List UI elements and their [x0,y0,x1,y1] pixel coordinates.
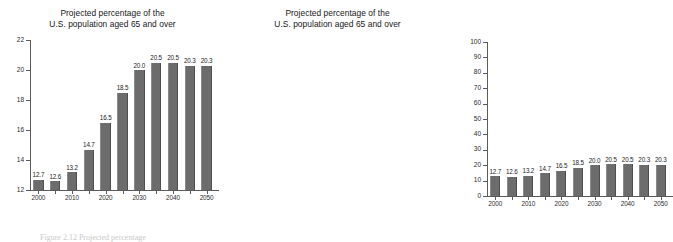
left-chart-y-tick-mark [26,40,30,41]
right-chart-y-tick-label: 30 [474,145,481,152]
right-chart-y-tick-mark [483,42,487,43]
right-chart-y-tick-mark [483,181,487,182]
right-chart-y-tick-label: 50 [474,115,481,122]
left-chart-bar-value-label: 13.2 [66,164,78,171]
left-chart-bar [201,66,212,191]
left-chart-y-tick-mark [26,130,30,131]
right-chart-bar-value-label: 20.3 [638,156,650,163]
left-chart-x-tick-label: 2000 [31,194,45,201]
left-chart-bar-value-label: 12.6 [49,173,61,180]
left-chart-y-tick-label: 22 [17,36,24,43]
right-chart-bar-value-label: 20.0 [589,157,601,164]
right-chart-y-tick-mark [483,104,487,105]
left-chart-bar [168,63,179,191]
right-chart-bar [573,168,583,196]
right-chart-y-tick-mark [483,134,487,135]
left-chart-bar [50,181,61,190]
right-chart-bar-value-label: 20.3 [655,156,667,163]
left-chart-x-tick-mark [190,191,191,194]
right-chart-y-tick-label: 60 [474,99,481,106]
right-chart-bar-value-label: 12.7 [489,168,501,175]
left-chart-y-tick-label: 14 [17,156,24,163]
left-chart-y-tick-mark [26,160,30,161]
left-chart-x-tick-mark [156,191,157,194]
left-chart-y-tick-label: 16 [17,126,24,133]
right-chart-x-tick-mark [644,197,645,200]
left-plot-area: 12141618202212.7200012.613.2201014.716.5… [0,0,225,240]
right-chart-y-tick-mark [483,165,487,166]
left-chart-y-tick-mark [26,100,30,101]
left-chart-y-tick-label: 12 [17,186,24,193]
right-chart-bar [540,173,550,196]
right-chart-y-tick-label: 40 [474,130,481,137]
left-chart-bar [185,66,196,191]
right-chart-x-tick-mark [545,197,546,200]
left-chart-bar [117,93,128,191]
right-chart-bar-value-label: 20.5 [622,156,634,163]
right-plot-area: 010203040506070809010012.7200012.613.220… [225,0,450,240]
right-chart-bar-value-label: 14.7 [539,165,551,172]
left-chart-bar [100,123,111,191]
left-chart-y-tick-mark [26,70,30,71]
right-chart-bar [490,176,500,196]
right-chart-x-tick-mark [512,197,513,200]
left-chart-x-tick-label: 2040 [166,194,180,201]
left-chart-y-tick-label: 20 [17,66,24,73]
left-chart-bar [33,180,44,191]
left-chart-bar [67,172,78,190]
left-chart-bar [84,150,95,191]
right-chart-y-tick-label: 80 [474,68,481,75]
left-chart-bar-value-label: 20.5 [167,54,179,61]
right-chart-x-tick-label: 2040 [621,200,635,207]
right-chart-y-tick-mark [483,57,487,58]
left-chart-x-tick-label: 2050 [200,194,214,201]
left-chart-x-tick-label: 2030 [132,194,146,201]
left-chart-bar-value-label: 18.5 [117,84,129,91]
right-chart-x-tick-label: 2020 [555,200,569,207]
right-chart-y-axis-line [487,42,488,197]
right-chart-y-tick-label: 20 [474,161,481,168]
left-chart-y-axis-line [30,40,31,191]
right-chart-y-tick-label: 100 [470,38,481,45]
right-chart-y-tick-mark [483,196,487,197]
right-chart-y-tick-label: 90 [474,53,481,60]
left-chart-x-tick-label: 2010 [65,194,79,201]
left-chart-x-tick-label: 2020 [99,194,113,201]
right-chart-bar-value-label: 20.5 [605,156,617,163]
right-chart-x-tick-mark [611,197,612,200]
right-chart-x-tick-mark [578,197,579,200]
right-chart-x-tick-label: 2010 [521,200,535,207]
left-chart-bar-value-label: 20.0 [133,62,145,69]
left-chart-bar-value-label: 14.7 [83,141,95,148]
left-chart-panel: Projected percentage of the U.S. populat… [0,0,225,240]
right-chart-bar [507,177,517,196]
right-chart-x-tick-label: 2030 [588,200,602,207]
left-chart-x-tick-mark [55,191,56,194]
left-chart-x-tick-mark [123,191,124,194]
left-chart-bar-value-label: 16.5 [100,114,112,121]
right-chart-y-tick-label: 10 [474,176,481,183]
right-chart-panel: Projected percentage of the U.S. populat… [225,0,450,240]
left-chart-bar-value-label: 20.3 [184,57,196,64]
right-chart-y-tick-mark [483,88,487,89]
right-chart-bar [656,165,666,196]
left-chart-bar-value-label: 20.5 [150,54,162,61]
left-chart-y-tick-label: 18 [17,96,24,103]
right-chart-bar [523,176,533,196]
left-chart-bar-value-label: 12.7 [33,171,45,178]
right-chart-y-tick-mark [483,119,487,120]
right-chart-y-tick-label: 70 [474,84,481,91]
right-chart-bar [623,164,633,196]
left-chart-bar-value-label: 20.3 [201,57,213,64]
left-chart-bar [151,63,162,191]
right-chart-x-tick-label: 2000 [488,200,502,207]
right-chart-y-tick-label: 0 [477,192,481,199]
right-chart-bar-value-label: 18.5 [572,159,584,166]
right-chart-y-tick-mark [483,150,487,151]
figure-caption: Figure 2.12 Projected percentage [40,233,146,242]
right-chart-x-tick-label: 2050 [654,200,668,207]
right-chart-y-tick-mark [483,73,487,74]
right-chart-bar [556,171,566,196]
right-chart-bar-value-label: 12.6 [506,168,518,175]
